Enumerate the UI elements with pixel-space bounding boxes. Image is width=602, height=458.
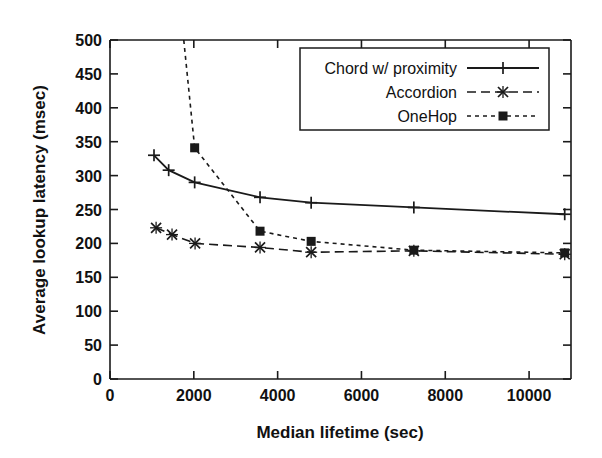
y-tick-label: 0 [93, 371, 102, 388]
data-point-marker [307, 237, 316, 246]
data-point-marker [256, 227, 265, 236]
x-tick-label: 8000 [427, 387, 463, 404]
x-tick-label: 10000 [507, 387, 552, 404]
y-tick-label: 300 [75, 168, 102, 185]
data-point-marker [254, 241, 266, 253]
y-tick-label: 500 [75, 32, 102, 49]
chart-legend: Chord w/ proximityAccordionOneHop [300, 48, 549, 130]
legend-entry-label: Accordion [386, 84, 457, 101]
x-tick-label: 6000 [344, 387, 380, 404]
y-tick-label: 350 [75, 134, 102, 151]
data-point-marker [190, 143, 199, 152]
data-point-marker [305, 246, 317, 258]
data-point-marker [409, 246, 418, 255]
x-tick-label: 0 [106, 387, 115, 404]
x-axis-label-text: Median lifetime (sec) [256, 423, 423, 442]
y-tick-label: 450 [75, 66, 102, 83]
legend-entry-label: Chord w/ proximity [325, 60, 457, 77]
legend-marker-cross [497, 86, 509, 98]
y-axis-label-text: Average lookup latency (msec) [30, 85, 49, 335]
x-axis-label: Median lifetime (sec) [256, 423, 423, 442]
y-tick-label: 200 [75, 235, 102, 252]
line-chart: Average lookup latency (msec) Median lif… [0, 0, 602, 458]
y-tick-label: 50 [84, 337, 102, 354]
data-point-marker [560, 248, 569, 257]
legend-entry-label: OneHop [397, 108, 457, 125]
data-point-marker [166, 229, 178, 241]
data-point-marker [150, 222, 162, 234]
y-tick-label: 150 [75, 269, 102, 286]
y-tick-label: 100 [75, 303, 102, 320]
chart-figure: Average lookup latency (msec) Median lif… [0, 0, 602, 458]
data-point-marker [189, 237, 201, 249]
y-tick-label: 400 [75, 100, 102, 117]
y-axis-label: Average lookup latency (msec) [30, 85, 49, 335]
x-tick-label: 2000 [176, 387, 212, 404]
x-tick-label: 4000 [260, 387, 296, 404]
y-tick-label: 250 [75, 202, 102, 219]
legend-marker-square [499, 112, 508, 121]
